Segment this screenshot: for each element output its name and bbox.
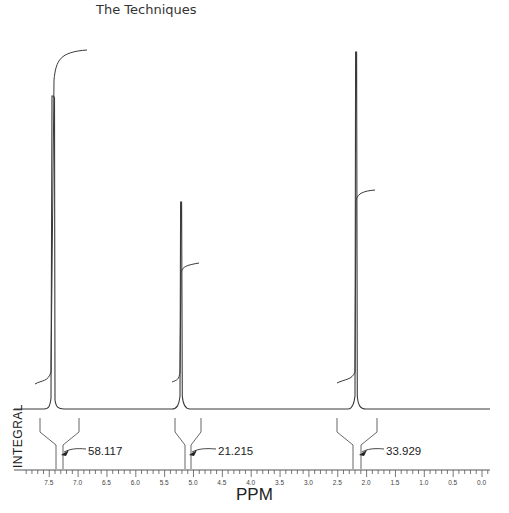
x-tick-label: 1.0 [419,479,428,486]
y-axis-label: INTEGRAL [11,404,25,468]
integral-value-1: 58.117 [88,445,122,457]
x-axis-title: PPM [236,485,273,504]
x-axis-ticks [26,470,488,477]
x-tick-label: 2.5 [333,479,342,486]
x-tick-label: 5.0 [189,479,198,486]
integral-bracket-1 [40,418,79,469]
x-tick-label: 3.5 [275,479,284,486]
integral-curve-2 [172,263,199,382]
x-tick-label: 7.5 [44,479,53,486]
nmr-spectrum-chart: 58.117 21.215 33.929 INTEGRAL 7.57.06.56… [0,0,509,513]
arrow-icon [189,450,197,456]
x-tick-label: 2.0 [362,479,371,486]
x-tick-label: 6.5 [102,479,111,486]
baseline-trace [14,52,490,409]
integral-value-2: 21.215 [218,445,253,457]
spectrum-trace [14,52,490,409]
arrow-icon [61,450,69,456]
x-tick-label: 7.0 [73,479,82,486]
integral-curve-1 [35,50,87,384]
arrow-icon [359,450,367,456]
integral-bracket-2 [175,418,201,469]
integral-value-3: 33.929 [386,445,421,457]
integral-brackets [40,418,377,469]
integral-curves [35,50,375,384]
x-tick-label: 6.0 [131,479,140,486]
x-tick-label: 5.5 [160,479,169,486]
x-tick-label: 0.0 [477,479,486,486]
integral-bracket-3 [337,418,377,469]
x-tick-label: 3.0 [304,479,313,486]
x-tick-label: 1.5 [390,479,399,486]
x-tick-label: 0.5 [448,479,457,486]
integral-curve-3 [337,190,375,383]
x-tick-label: 4.5 [217,479,226,486]
